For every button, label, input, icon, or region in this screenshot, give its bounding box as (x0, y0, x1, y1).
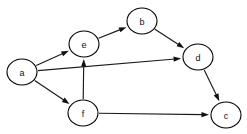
arrowhead-icon-a-f (62, 98, 70, 104)
graph-node-d[interactable]: d (183, 44, 213, 70)
graph-edge-f-e (83, 65, 84, 99)
arrowhead-icon-e-b (119, 27, 127, 32)
node-label-e: e (81, 40, 86, 50)
graph-node-f[interactable]: f (68, 100, 98, 126)
graph-node-e[interactable]: e (69, 31, 99, 57)
edge-layer (35, 27, 220, 117)
arrowhead-icon-b-d (177, 42, 185, 48)
graph-edge-d-c (204, 70, 217, 96)
node-layer: aebdcf (7, 8, 241, 128)
node-label-d: d (195, 53, 200, 63)
node-label-c: c (224, 111, 229, 121)
arrowhead-icon-a-e (61, 51, 69, 56)
graph-edge-f-c (99, 113, 203, 114)
node-label-b: b (139, 17, 144, 27)
arrowhead-icon-f-e (81, 59, 86, 67)
arrowhead-icon-f-c (201, 112, 209, 117)
graph-edge-e-b (99, 29, 121, 38)
graph-node-b[interactable]: b (127, 8, 157, 34)
arrowhead-icon-a-d (173, 56, 181, 61)
graph-node-a[interactable]: a (7, 59, 37, 85)
graph-node-c[interactable]: c (211, 102, 241, 128)
graph-edge-a-d (38, 59, 175, 71)
arrowhead-icon-d-c (214, 93, 220, 101)
graph-edge-a-f (35, 81, 65, 101)
directed-graph-figure: aebdcf (0, 0, 247, 134)
graph-edge-b-d (155, 29, 179, 45)
graph-edge-a-e (36, 53, 63, 65)
node-label-a: a (19, 68, 24, 78)
